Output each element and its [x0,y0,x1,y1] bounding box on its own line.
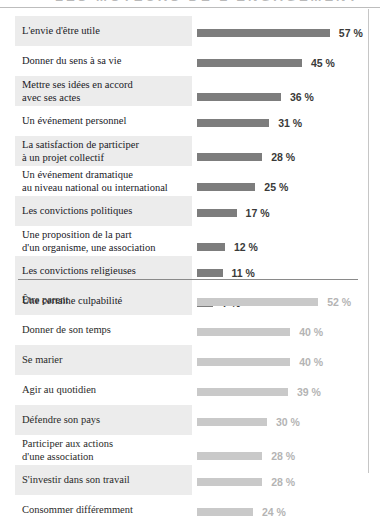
bar-value-label: 17 % [246,207,270,219]
table-row: L'envie d'être utile57 % [0,16,368,46]
row-label-line-2: à un projet collectif [22,152,194,165]
bar-value-label: 36 % [290,91,314,103]
table-row: Se marier40 % [0,345,368,375]
bar [197,29,330,37]
table-row: Donner de son temps40 % [0,315,368,345]
bar-group: 28 % [197,450,295,462]
row-label-line-1: La satisfaction de participer [22,139,194,152]
bar-value-label: 11 % [232,267,255,279]
clipped-title-text: LES MOTEURS DE L'ENGAGEMENT [55,0,359,4]
table-row: S'investir dans son travail28 % [0,465,368,495]
bar-group: 39 % [197,386,321,398]
table-row: Défendre son pays30 % [0,405,368,435]
bar-group: 57 % [197,27,363,39]
bar [197,298,318,306]
bar [197,508,253,516]
chart-section-motivations: L'envie d'être utile57 %Donner du sens à… [0,16,368,316]
table-row: Agir au quotidien39 % [0,375,368,405]
table-row: La satisfaction de participerà un projet… [0,136,368,166]
row-label: La satisfaction de participerà un projet… [22,139,194,164]
row-label: Participer aux actionsd'une association [22,438,194,463]
bar [197,209,237,217]
bar [197,269,223,277]
row-label-line-1: Participer aux actions [22,438,194,451]
row-label: Se marier [22,354,194,367]
bar-value-label: 28 % [271,476,295,488]
bar [197,358,290,366]
row-label: Donner de son temps [22,324,194,337]
bar-group: 40 % [197,326,323,338]
bar-group: 12 % [197,241,258,253]
bar-value-label: 57 % [339,27,363,39]
bar-value-label: 24 % [262,506,286,518]
row-label: Consommer différemment [22,504,194,517]
bar-group: 11 % [197,267,255,279]
bar-value-label: 25 % [264,181,288,193]
row-label-line-1: Mettre ses idées en accord [22,79,194,92]
row-label: Défendre son pays [22,414,194,427]
bar-group: 36 % [197,91,314,103]
row-label: Les convictions religieuses [22,265,194,278]
row-label: L'envie d'être utile [22,25,194,38]
bar [197,119,269,127]
bar [197,452,262,460]
bar [197,93,281,101]
row-label: Une proposition de la partd'un organisme… [22,229,194,254]
bar-group: 30 % [197,416,300,428]
bar-group: 31 % [197,117,302,129]
row-label-line-2: avec ses actes [22,92,194,105]
bar-value-label: 30 % [276,416,300,428]
row-label-line-2: au niveau national ou international [22,182,194,195]
bar [197,243,225,251]
row-label: Agir au quotidien [22,384,194,397]
bar-group: 45 % [197,57,335,69]
bar-group: 28 % [197,476,295,488]
bar-value-label: 28 % [271,450,295,462]
bar [197,183,255,191]
section-divider-rule [18,279,358,280]
bar-value-label: 40 % [299,326,323,338]
bar [197,328,290,336]
bar [197,388,288,396]
table-row: Les convictions politiques17 % [0,196,368,226]
row-label: Donner du sens à sa vie [22,55,194,68]
table-row: Mettre ses idées en accordavec ses actes… [0,76,368,106]
bar-group: 52 % [197,296,351,308]
table-row: Être parent52 % [0,285,368,315]
row-label-line-2: d'un organisme, une association [22,242,194,255]
bar-value-label: 39 % [297,386,321,398]
row-label: Mettre ses idées en accordavec ses actes [22,79,194,104]
row-label-line-1: Une proposition de la part [22,229,194,242]
row-label-line-1: Un événement dramatique [22,169,194,182]
bar-value-label: 12 % [234,241,258,253]
bar-group: 28 % [197,151,295,163]
bar-value-label: 28 % [271,151,295,163]
bar-group: 17 % [197,207,270,219]
row-label: Être parent [22,294,194,307]
bar [197,478,262,486]
table-row: Les convictions religieuses11 % [0,256,368,286]
clipped-title-strip: LES MOTEURS DE L'ENGAGEMENT [0,0,380,7]
bar-value-label: 45 % [311,57,335,69]
table-row: Un événement dramatiqueau niveau nationa… [0,166,368,196]
row-label: Un événement dramatiqueau niveau nationa… [22,169,194,194]
row-label: Un événement personnel [22,115,194,128]
bar-value-label: 52 % [327,296,351,308]
bar-group: 40 % [197,356,323,368]
right-border-rule [368,9,369,473]
bar-value-label: 40 % [299,356,323,368]
row-label: S'investir dans son travail [22,474,194,487]
row-label: Les convictions politiques [22,205,194,218]
row-label-line-2: d'une association [22,451,194,464]
bar-group: 25 % [197,181,288,193]
table-row: Consommer différemment24 % [0,495,368,520]
bar-value-label: 31 % [278,117,302,129]
bar [197,59,302,67]
top-divider-rule [0,7,380,8]
bar [197,418,267,426]
table-row: Un événement personnel31 % [0,106,368,136]
table-row: Donner du sens à sa vie45 % [0,46,368,76]
bar-group: 24 % [197,506,286,518]
table-row: Une proposition de la partd'un organisme… [0,226,368,256]
chart-section-engagements: Être parent52 %Donner de son temps40 %Se… [0,285,368,520]
